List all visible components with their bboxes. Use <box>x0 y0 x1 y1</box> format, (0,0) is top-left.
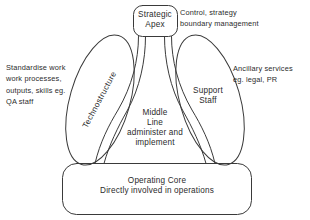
support-staff-label: Support Staff <box>182 86 234 106</box>
strategic-apex-annotation: Control, strategy boundary management <box>180 7 306 30</box>
diagram-canvas: Strategic Apex Technostructure Support S… <box>0 0 310 220</box>
technostructure-annotation: Standardise work work processes, outputs… <box>6 62 84 107</box>
support-staff-annotation: Ancillary services eg. legal, PR <box>233 63 307 86</box>
strategic-apex-label: Strategic Apex <box>133 10 177 30</box>
operating-core-label: Operating Core Directly involved in oper… <box>64 176 250 196</box>
middle-line-label: Middle Line administer and implement <box>116 108 194 148</box>
